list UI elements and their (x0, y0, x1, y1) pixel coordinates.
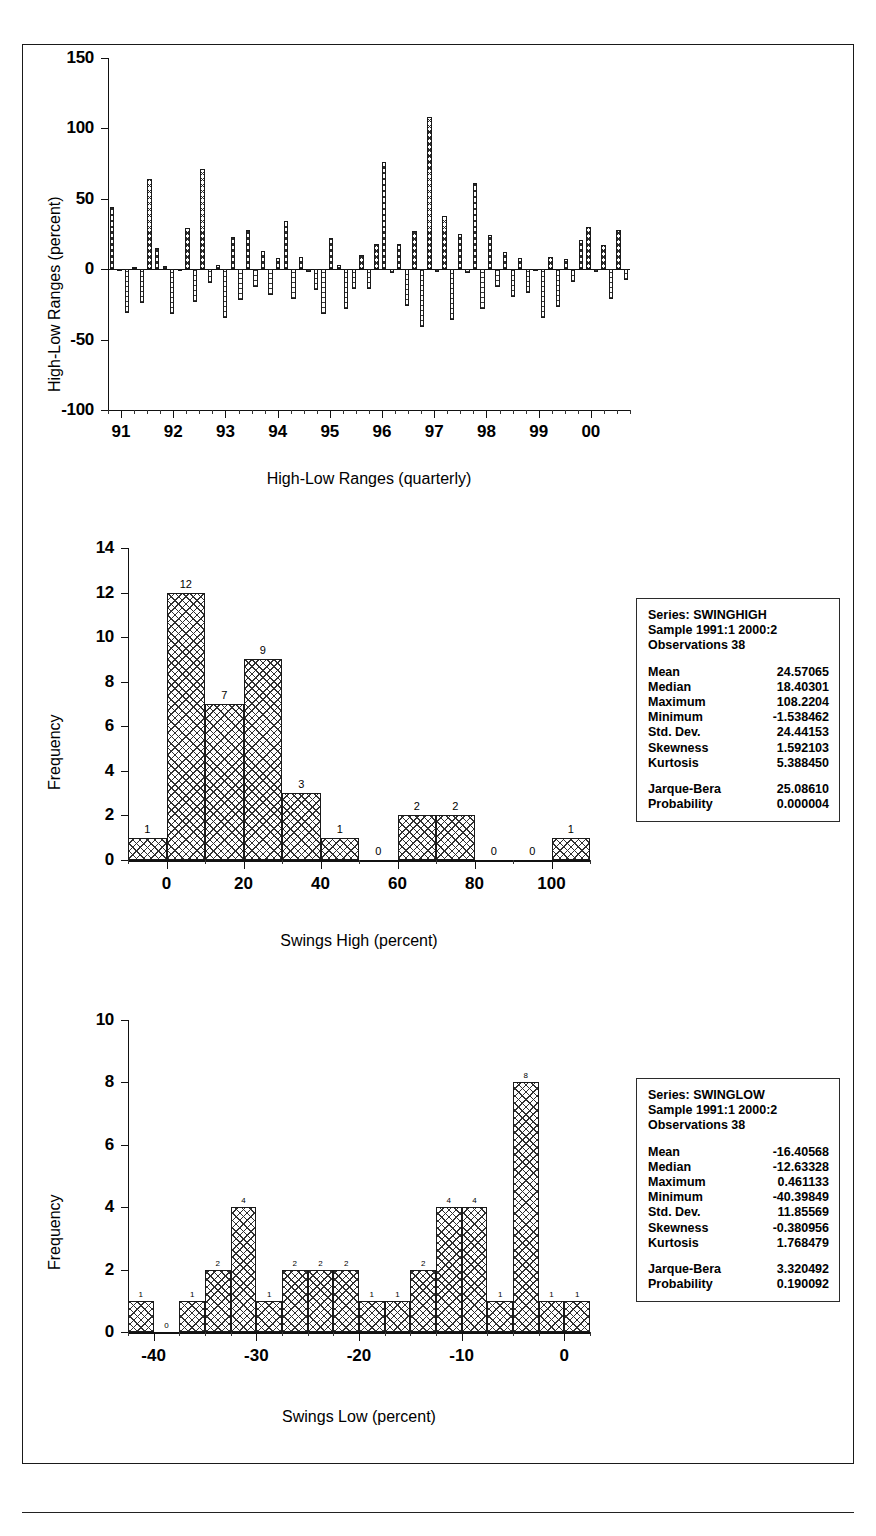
chart2-bin-label: 1 (337, 823, 343, 835)
chart1-y-tick-label: 100 (24, 118, 94, 138)
chart1-bar (208, 269, 212, 283)
chart1-bar (185, 228, 189, 269)
chart2-y-axis (128, 548, 129, 860)
chart1-x-minor-tick (147, 410, 148, 414)
chart1-bar (223, 269, 227, 318)
swinglow-stats-stat-row: Kurtosis1.768479 (648, 1236, 829, 1251)
chart3-y-axis (128, 1020, 129, 1332)
chart1-x-tick (121, 410, 122, 418)
chart1-x-tick (591, 410, 592, 418)
swinglow-stats-spacer-2 (648, 1251, 829, 1262)
chart2-x-tick (398, 860, 399, 869)
chart2-x-tick-label: 60 (388, 874, 407, 894)
chart1-x-minor-tick (513, 410, 514, 414)
swinghigh-stats-stat-row-key: Std. Dev. (648, 725, 715, 740)
chart2-y-tick (121, 815, 128, 816)
chart1-bar (526, 269, 530, 293)
chart3-bin-tick (308, 1332, 309, 1336)
chart3-x-tick-label: -10 (449, 1346, 474, 1366)
swinghigh-stats-stat-row: Mean24.57065 (648, 665, 829, 680)
chart1-bar (420, 269, 424, 327)
swinghigh-stats-stat-row-value: 108.2204 (777, 695, 829, 710)
chart-high-low-ranges: High-Low Ranges (percent) Natural Gas Fu… (0, 0, 876, 520)
swinghigh-stats-test-row-value: 25.08610 (777, 782, 829, 797)
chart1-bar (147, 179, 151, 269)
chart2-y-tick-label: 4 (44, 761, 114, 781)
swinglow-stats-stat-row-value: 0.461133 (778, 1175, 829, 1190)
chart1-y-tick (101, 199, 108, 200)
chart1-bar (579, 240, 583, 270)
chart3-bin-label: 1 (190, 1290, 194, 1299)
chart1-x-tick (382, 410, 383, 418)
swinghigh-stats-stat-row-key: Mean (648, 665, 694, 680)
chart1-bar (125, 269, 129, 313)
chart3-y-tick-label: 10 (44, 1010, 114, 1030)
chart3-x-tick (359, 1332, 360, 1341)
chart3-bin-tick (282, 1332, 283, 1336)
chart1-bar (253, 269, 257, 287)
chart2-bin-label: 12 (180, 578, 192, 590)
chart2-bin-tick (513, 860, 514, 864)
chart1-bar (299, 257, 303, 270)
chart1-bar (503, 252, 507, 269)
chart1-bar (601, 245, 605, 269)
chart1-bar (624, 269, 628, 280)
swinglow-stats-test-row-key: Probability (648, 1277, 727, 1292)
chart1-bar (291, 269, 295, 299)
swinglow-stats-test-row: Probability0.190092 (648, 1277, 829, 1292)
chart3-bin-label: 8 (524, 1071, 528, 1080)
chart3-y-tick (121, 1207, 128, 1208)
chart1-x-tick (173, 410, 174, 418)
chart1-x-minor-tick (343, 410, 344, 414)
chart3-bin-bar (410, 1270, 436, 1332)
chart1-x-minor-tick (617, 410, 618, 414)
stats-box-swinghigh: Series: SWINGHIGHSample 1991:1 2000:2Obs… (636, 598, 840, 822)
chart3-bin-label: 4 (447, 1196, 451, 1205)
chart3-y-tick (121, 1145, 128, 1146)
chart3-x-tick (462, 1332, 463, 1341)
chart1-bar (541, 269, 545, 318)
chart1-y-tick (101, 128, 108, 129)
chart1-bar (367, 269, 371, 289)
swinglow-stats-test-row-value: 0.190092 (777, 1277, 829, 1292)
chart1-bar (450, 269, 454, 320)
swinglow-stats-stat-row-key: Kurtosis (648, 1236, 713, 1251)
chart1-x-minor-tick (473, 410, 474, 414)
swinglow-stats-test-row-key: Jarque-Bera (648, 1262, 735, 1277)
chart2-bin-tick (282, 860, 283, 864)
chart2-x-tick-label: 100 (537, 874, 565, 894)
swinglow-stats-observations-label: Observations 38 (648, 1118, 829, 1133)
chart3-bin-label: 2 (216, 1259, 220, 1268)
chart1-bar (246, 230, 250, 269)
chart1-x-tick-label: 00 (581, 422, 600, 442)
chart2-y-tick (121, 593, 128, 594)
chart1-y-tick-label: -50 (24, 330, 94, 350)
swinghigh-stats-stat-row: Std. Dev.24.44153 (648, 725, 829, 740)
chart2-y-tick-label: 12 (44, 583, 114, 603)
chart3-bin-bar (282, 1270, 308, 1332)
chart1-bar (495, 269, 499, 287)
chart1-bar (110, 207, 114, 269)
chart1-bar (609, 269, 613, 299)
swinglow-stats-stat-row-value: 11.85569 (778, 1205, 829, 1220)
chart1-bar (488, 235, 492, 269)
chart1-bar (594, 269, 598, 272)
chart-swings-low: Frequency Natural Gas Futures 0246810101… (0, 990, 876, 1470)
chart2-y-tick-label: 0 (44, 850, 114, 870)
chart3-y-tick (121, 1332, 128, 1333)
chart3-bin-tick (487, 1332, 488, 1336)
chart3-bin-tick (410, 1332, 411, 1336)
chart2-bin-tick (359, 860, 360, 864)
chart3-bin-label: 2 (344, 1259, 348, 1268)
chart2-x-axis-title: Swings High (percent) (128, 932, 590, 950)
chart1-bar (473, 183, 477, 269)
chart3-y-tick-label: 2 (44, 1260, 114, 1280)
chart1-x-minor-tick (252, 410, 253, 414)
chart3-bin-tick (436, 1332, 437, 1336)
chart2-bin-bar (321, 838, 360, 860)
chart1-x-minor-tick (500, 410, 501, 414)
chart1-y-tick (101, 269, 108, 270)
chart1-bar (390, 269, 394, 273)
chart1-bar (427, 117, 431, 269)
chart1-x-axis-title: High-Low Ranges (quarterly) (108, 470, 630, 488)
